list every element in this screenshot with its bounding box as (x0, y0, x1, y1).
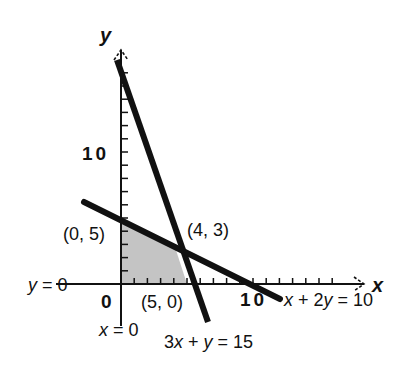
x-tick-10-label: 10 (240, 289, 267, 310)
y-axis-label: y (99, 24, 112, 46)
label-x-eq-0: x = 0 (98, 320, 139, 340)
point-label-0-5: (0, 5) (63, 224, 105, 244)
y-tick-10-label: 10 (82, 143, 109, 164)
label-x-plus-2y-eq-10: x + 2y = 10 (283, 290, 373, 310)
point-label-5-0: (5, 0) (141, 292, 183, 312)
point-label-4-3: (4, 3) (187, 220, 229, 240)
linear-programming-graph: y x 10 10 0 (0, 5) (4, 3) (5, 0) y = 0 x… (0, 0, 415, 370)
label-3x-plus-y-eq-15: 3x + y = 15 (164, 332, 253, 352)
origin-label: 0 (101, 291, 112, 312)
label-y-eq-0: y = 0 (26, 275, 68, 295)
